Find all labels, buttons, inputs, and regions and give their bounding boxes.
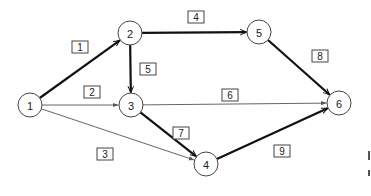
edge-3-to-6	[143, 103, 327, 105]
edge-label-box: 5	[140, 63, 156, 75]
edge-label-box: 7	[173, 127, 189, 139]
edge-2-to-5	[142, 32, 247, 33]
node-label: 5	[256, 27, 262, 39]
edge-label-box: 4	[188, 11, 204, 23]
edge-label-box: 2	[84, 86, 100, 98]
arrow-line	[268, 40, 330, 95]
edge-label-text: 9	[279, 146, 285, 157]
edge-label-text: 4	[193, 12, 199, 23]
edge-label-box: 3	[97, 148, 113, 160]
edge-2-to-3	[130, 45, 131, 93]
edge-label-box: 1	[72, 41, 88, 53]
arrow-line	[217, 108, 328, 159]
edge-label-text: 6	[227, 90, 233, 101]
edge-label-box: 9	[274, 145, 290, 157]
node-5: 5	[247, 20, 271, 44]
cropped-glyph-fragment	[368, 170, 370, 176]
edge-label-box: 6	[222, 89, 238, 101]
node-4: 4	[194, 152, 218, 176]
edge-5-to-6	[268, 40, 330, 95]
arrow-line	[142, 32, 247, 33]
edge-4-to-6	[217, 108, 328, 159]
edge-label-box: 8	[312, 50, 328, 62]
edge-label-text: 8	[317, 51, 323, 62]
nodes-layer: 123456	[18, 20, 351, 176]
node-3: 3	[119, 93, 143, 117]
cropped-glyph-fragment	[368, 151, 370, 160]
node-label: 3	[128, 100, 134, 112]
network-diagram: 123456789 123456	[0, 0, 371, 196]
node-2: 2	[118, 21, 142, 45]
node-6: 6	[327, 91, 351, 115]
edge-label-text: 7	[178, 128, 184, 139]
edge-label-text: 1	[77, 42, 83, 53]
edge-label-text: 5	[145, 64, 151, 75]
node-label: 1	[27, 100, 33, 112]
node-1: 1	[18, 93, 42, 117]
edge-label-text: 2	[89, 87, 95, 98]
node-label: 2	[127, 28, 133, 40]
node-label: 4	[203, 159, 209, 171]
arrow-line	[41, 109, 194, 160]
node-label: 6	[336, 98, 342, 110]
edge-1-to-4	[41, 109, 194, 160]
arrow-line	[130, 45, 131, 93]
edge-label-text: 3	[102, 149, 108, 160]
arrow-line	[143, 103, 327, 105]
